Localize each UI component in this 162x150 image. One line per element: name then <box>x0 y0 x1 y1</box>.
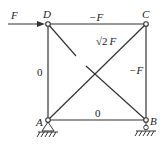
joint-C <box>144 22 149 27</box>
joint-B <box>144 118 149 123</box>
force-label-AC: √2F <box>96 36 116 47</box>
node-label-A: A <box>36 117 43 128</box>
force-label-CB: −F <box>129 65 143 76</box>
force-label-AB: 0 <box>95 108 101 119</box>
joint-A <box>46 118 51 123</box>
member-DB-upper <box>48 24 76 56</box>
node-label-D: D <box>43 9 51 20</box>
joint-D <box>46 22 51 27</box>
force-label-DA: 0 <box>37 67 43 78</box>
force-label-DC: −F <box>89 12 103 23</box>
force-symbol-F: F <box>110 35 117 47</box>
node-label-B: B <box>150 116 157 127</box>
load-arrow-F <box>8 21 45 27</box>
node-label-C: C <box>142 9 149 20</box>
load-label: F <box>11 10 18 21</box>
radical-sqrt2: √2 <box>96 35 108 47</box>
